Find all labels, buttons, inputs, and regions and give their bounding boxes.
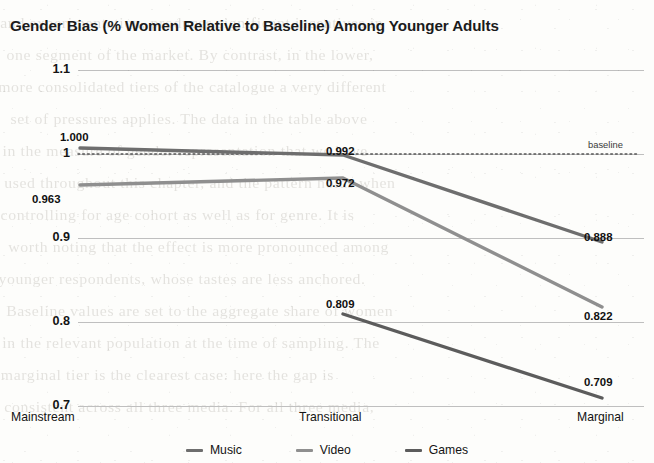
legend-item-video[interactable]: Video bbox=[296, 443, 351, 457]
series-line-music bbox=[80, 148, 602, 242]
chart-legend: Music Video Games bbox=[0, 440, 654, 460]
data-label-video-marginal: 0.822 bbox=[584, 311, 613, 322]
data-label-music-marginal: 0.888 bbox=[584, 232, 613, 243]
legend-item-music[interactable]: Music bbox=[186, 443, 242, 457]
data-label-music-transitional: 0.992 bbox=[326, 146, 355, 157]
data-label-games-marginal: 0.709 bbox=[584, 377, 613, 388]
series-line-games bbox=[343, 314, 602, 398]
legend-swatch-music-icon bbox=[186, 449, 203, 452]
series-line-video bbox=[80, 178, 602, 307]
legend-item-games[interactable]: Games bbox=[405, 443, 468, 457]
legend-label-games: Games bbox=[429, 443, 468, 457]
legend-label-music: Music bbox=[210, 443, 242, 457]
data-label-music-mainstream: 1.000 bbox=[60, 132, 89, 143]
data-label-games-transitional: 0.809 bbox=[326, 299, 355, 310]
legend-swatch-video-icon bbox=[296, 449, 313, 452]
baseline-annotation-label: baseline bbox=[588, 139, 623, 150]
data-label-video-transitional: 0.972 bbox=[326, 178, 355, 189]
legend-label-video: Video bbox=[320, 443, 351, 457]
data-label-video-mainstream: 0.963 bbox=[32, 194, 61, 205]
chart-container: Gender Bias (% Women Relative to Baselin… bbox=[0, 0, 654, 463]
legend-swatch-games-icon bbox=[405, 449, 422, 452]
plot-area bbox=[0, 0, 654, 463]
